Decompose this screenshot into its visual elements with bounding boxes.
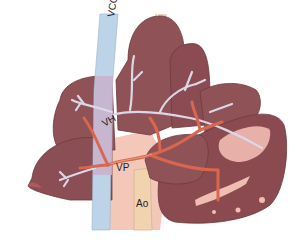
liver-illustration (0, 0, 303, 240)
label-ao: Ao (136, 199, 148, 209)
liver-anatomy-figure: VCC VH VP Ao (0, 0, 303, 240)
label-vp: VP (116, 163, 129, 173)
